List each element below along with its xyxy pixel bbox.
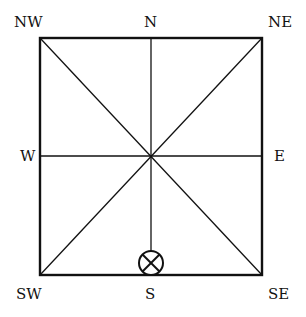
label-nw: NW bbox=[14, 13, 43, 31]
label-sw: SW bbox=[16, 285, 42, 303]
label-n: N bbox=[144, 13, 157, 31]
label-w: W bbox=[20, 147, 36, 165]
label-e: E bbox=[274, 147, 285, 165]
label-ne: NE bbox=[268, 13, 292, 31]
label-se: SE bbox=[268, 285, 289, 303]
compass-diagram: NW N NE W E SW S SE bbox=[0, 0, 306, 317]
circled-x-marker bbox=[139, 251, 163, 275]
label-s: S bbox=[145, 285, 155, 303]
